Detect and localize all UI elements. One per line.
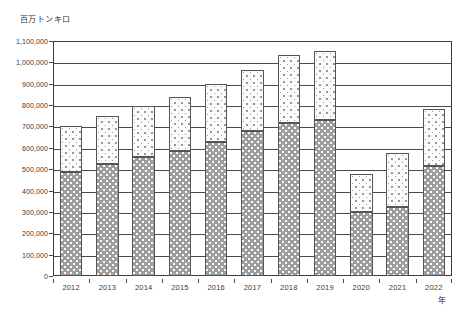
x-axis-tick-mark [89,279,90,283]
y-axis-tick-label: 100,000 [22,251,48,258]
gridline [54,234,451,235]
x-axis-tick-label: 2018 [280,283,298,292]
x-axis-tick-label: 2015 [171,283,189,292]
y-axis-tick-label: 700,000 [22,123,48,130]
gridline [54,192,451,193]
y-axis-tick-label: 0 [44,273,48,280]
x-axis-tick-label: 2016 [207,283,225,292]
x-axis-tick-label: 2017 [244,283,262,292]
x-axis-tick-mark [343,279,344,283]
x-axis-tick-mark [451,279,452,283]
y-axis-tick-label: 1,100,000 [16,38,48,45]
y-axis-tick-label: 400,000 [22,187,48,194]
x-axis-tick-mark [234,279,235,283]
y-axis-tick-label: 600,000 [22,144,48,151]
x-axis-tick-mark [416,279,417,283]
gridline [54,256,451,257]
y-axis-tick-label: 200,000 [22,230,48,237]
x-axis-tick-labels: 2012201320142015201620172018201920202021… [53,279,452,297]
x-axis-tick-mark [198,279,199,283]
y-axis-tick-label: 900,000 [22,80,48,87]
y-axis-tick-mark [49,169,53,170]
y-axis-tick-label: 500,000 [22,166,48,173]
x-axis-title: 年 [438,294,446,305]
x-axis-tick-mark [271,279,272,283]
y-axis-tick-label: 300,000 [22,208,48,215]
y-axis-tick-mark [49,191,53,192]
x-axis-tick-mark [307,279,308,283]
y-axis-tick-mark [49,41,53,42]
x-axis-tick-mark [379,279,380,283]
y-axis-title: 百万トンキロ [20,13,70,24]
x-axis-tick-mark [53,279,54,283]
y-axis-tick-mark [49,84,53,85]
gridline [54,213,451,214]
y-axis-tick-mark [49,105,53,106]
y-axis-tick-mark [49,212,53,213]
x-axis-tick-mark [162,279,163,283]
y-axis-tick-mark [49,148,53,149]
y-axis-tick-mark [49,276,53,277]
x-axis-tick-label: 2020 [353,283,371,292]
gridline [54,85,451,86]
plot-area [53,41,452,276]
y-axis-tick-mark [49,255,53,256]
x-axis-tick-mark [126,279,127,283]
gridline [54,106,451,107]
x-axis-tick-label: 2014 [135,283,153,292]
y-axis-tick-mark [49,62,53,63]
y-axis-tick-mark [49,233,53,234]
gridline [54,127,451,128]
x-axis-tick-label: 2012 [62,283,80,292]
x-axis-tick-label: 2022 [425,283,443,292]
chart-container: 百万トンキロ 1,100,0001,000,000900,000800,0007… [0,0,471,313]
x-axis-tick-label: 2021 [389,283,407,292]
y-axis-tick-mark [49,126,53,127]
gridline [54,63,451,64]
x-axis-tick-label: 2019 [316,283,334,292]
gridline [54,149,451,150]
y-axis-tick-label: 800,000 [22,102,48,109]
y-axis-tick-labels: 1,100,0001,000,000900,000800,000700,0006… [0,41,48,276]
x-axis-tick-label: 2013 [99,283,117,292]
y-axis-tick-label: 1,000,000 [16,59,48,66]
gridline [54,170,451,171]
